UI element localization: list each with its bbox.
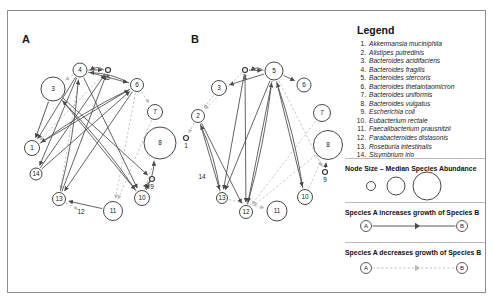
legend-node-a-label: A [364, 223, 368, 229]
legend-graphics: ABAB [0, 0, 493, 302]
legend-arrowhead [415, 265, 420, 271]
legend-node-a-label: A [364, 265, 368, 271]
node-size-samples [367, 172, 442, 200]
node-size-sample-small [367, 182, 376, 191]
legend-node-b-label: B [460, 223, 464, 229]
figure-root: A B 134567891011121314234567891011121314… [0, 0, 493, 302]
legend-node-b-label: B [460, 265, 464, 271]
node-size-sample-large [413, 172, 441, 200]
node-size-sample-medium [387, 177, 405, 195]
legend-arrow-samples: ABAB [361, 221, 468, 274]
legend-arrowhead [415, 223, 420, 229]
